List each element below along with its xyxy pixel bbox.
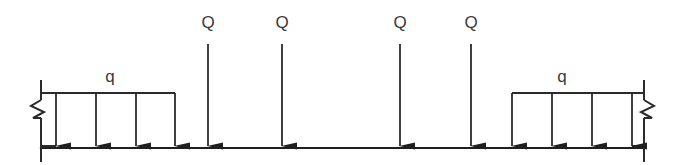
point-load-4-label: Q bbox=[464, 14, 477, 31]
left-distributed-load bbox=[56, 93, 175, 146]
right-distributed-load-label: q bbox=[557, 68, 566, 85]
right-distributed-load bbox=[512, 93, 632, 146]
beam-diagram-canvas bbox=[0, 0, 674, 165]
left-distributed-load-label: q bbox=[105, 68, 114, 85]
point-load-1-label: Q bbox=[201, 14, 214, 31]
point-load-2-label: Q bbox=[275, 14, 288, 31]
left-break-symbol bbox=[31, 80, 56, 162]
point-load-3-label: Q bbox=[393, 14, 406, 31]
beam-load-diagram: q q Q Q Q Q bbox=[0, 0, 674, 165]
right-break-symbol bbox=[632, 80, 654, 162]
point-load-arrows bbox=[208, 44, 471, 146]
